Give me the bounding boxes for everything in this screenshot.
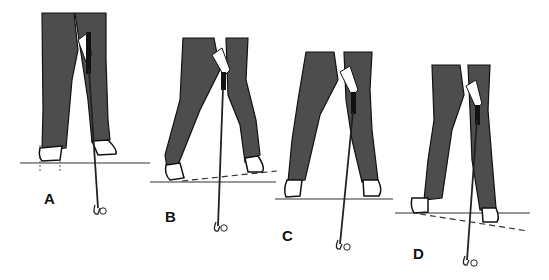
figure-label-c: C [282,227,293,244]
figure-label-a: A [44,190,55,207]
right-shoe [482,208,498,222]
figure-c [275,52,393,250]
club-grip [221,72,226,90]
figure-d [395,65,530,266]
golf-ball [344,244,350,250]
right-leg [226,38,260,162]
right-shoe [92,140,116,155]
figure-a [20,13,150,214]
left-leg [42,13,78,150]
left-leg [288,52,338,182]
club-shaft [340,112,353,244]
left-shoe [411,198,428,213]
figure-b [150,38,277,231]
left-shoe [39,146,62,161]
club-shaft [218,88,223,226]
golf-ball [100,208,106,214]
right-shoe [363,180,381,196]
left-shoe [166,163,185,180]
left-leg [424,65,464,200]
golf-stance-illustration: .pants { fill:#4d4d4d; stroke:#111; stro… [0,0,549,280]
figure-label-d: D [413,245,424,262]
right-shoe [245,156,263,172]
left-shoe [285,180,302,197]
figure-label-b: B [165,208,176,225]
golf-ball [471,260,477,266]
club-head [463,256,469,265]
club-grip [351,92,356,114]
left-leg [165,38,220,168]
slope-line [182,171,277,181]
golf-ball [221,225,227,231]
club-grip [86,32,91,74]
slope-line [420,214,528,231]
